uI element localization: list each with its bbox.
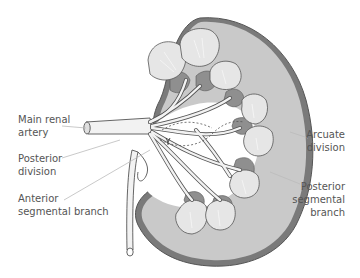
pyramid-5 (244, 126, 274, 156)
pyramid-8 (206, 200, 236, 230)
label-anterior-segmental-branch: Anterior segmental branch (18, 192, 109, 218)
label-main-renal-artery: Main renal artery (18, 113, 70, 139)
main-renal-artery (84, 118, 152, 134)
pyramid-4 (242, 94, 268, 124)
pyramid-2 (180, 29, 219, 67)
label-posterior-division: Posterior division (18, 152, 62, 178)
pyramid-6 (230, 170, 260, 198)
label-arcuate-division: Arcuate division (306, 128, 345, 154)
label-posterior-segmental-branch: Posterior segmental branch (292, 180, 345, 219)
pyramid-3 (210, 61, 241, 89)
